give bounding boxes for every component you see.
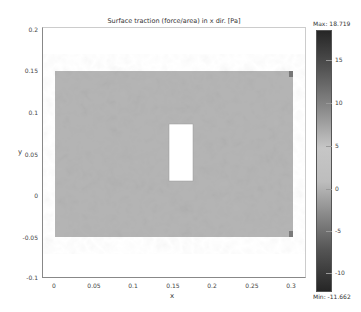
plot-axes (42, 27, 306, 278)
colorbar-tick: 0 (335, 185, 339, 192)
y-tick: 0.2 (4, 26, 38, 33)
colorbar-tick: 5 (335, 142, 339, 149)
colorbar (316, 30, 332, 292)
y-tick: -0.05 (4, 234, 38, 241)
y-tick: -0.1 (4, 274, 38, 281)
y-tick: 0 (4, 192, 38, 199)
x-tick: 0.1 (118, 282, 148, 289)
x-tick: 0.3 (276, 282, 306, 289)
x-tick: 0.25 (237, 282, 267, 289)
y-tick: 0.15 (4, 67, 38, 74)
colorbar-max-label: Max: 18.719 (313, 20, 350, 27)
x-tick: 0 (39, 282, 69, 289)
x-tick: 0.15 (158, 282, 188, 289)
y-tick: 0.1 (4, 109, 38, 116)
x-tick: 0.05 (79, 282, 109, 289)
colorbar-tick: -10 (335, 269, 345, 276)
field-plot (43, 28, 305, 277)
colorbar-tick: 15 (335, 56, 343, 63)
x-tick: 0.2 (197, 282, 227, 289)
colorbar-tick: -5 (335, 227, 341, 234)
chart-title: Surface traction (force/area) in x dir. … (42, 17, 306, 25)
y-axis-label: y (18, 148, 22, 156)
colorbar-tick: 10 (335, 99, 343, 106)
colorbar-min-label: Min: -11.662 (313, 293, 351, 300)
hole-region (169, 124, 193, 181)
x-axis-label: x (170, 292, 174, 300)
